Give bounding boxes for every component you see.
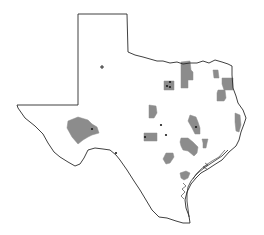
shaded-region-northeast-large [222, 78, 233, 90]
dot-marker-icon [144, 136, 146, 138]
dot-marker-icon [169, 86, 171, 88]
dot-marker-icon [166, 85, 168, 87]
shaded-region-northeast-mid [217, 90, 226, 101]
texas-map [0, 0, 264, 235]
dot-marker-icon [195, 126, 197, 128]
map-canvas [0, 0, 264, 235]
dot-marker-icon [115, 152, 117, 154]
dot-marker-icon [160, 124, 162, 126]
dot-marker-icon [169, 81, 171, 83]
shaded-region-northeast-small [213, 70, 219, 78]
dot-marker-icon [165, 134, 167, 136]
dot-marker-icon [91, 128, 93, 130]
map-background [0, 0, 264, 235]
